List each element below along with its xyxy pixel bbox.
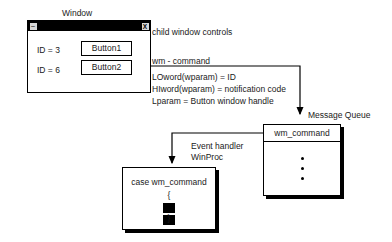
- message-queue-box: wm_command: [263, 124, 341, 196]
- close-icon[interactable]: X: [142, 23, 149, 30]
- button1[interactable]: Button1: [81, 41, 132, 56]
- child-window-controls-label: child window controls: [152, 27, 232, 38]
- message-queue-head-item[interactable]: wm_command: [264, 125, 340, 142]
- param-lparam: Lparam = Button window handle: [152, 96, 286, 107]
- button2[interactable]: Button2: [81, 60, 132, 75]
- diagram-canvas: Window – X ID = 3 Button1 ID = 6 Button2…: [0, 0, 392, 242]
- event-handler-label: Event handler WinProc: [191, 141, 243, 163]
- message-queue-label: Message Queue: [308, 110, 370, 121]
- wm-command-label: wm - command: [152, 56, 210, 67]
- button2-id-label: ID = 6: [37, 65, 60, 75]
- case-block-title: case wm_command: [123, 177, 215, 187]
- case-close-brace: }: [123, 213, 215, 223]
- queue-dot: [301, 177, 304, 180]
- case-block-body: { }: [123, 190, 215, 223]
- window-titlebar: – X: [28, 21, 150, 31]
- message-queue-pending-items: [264, 142, 340, 195]
- param-hiword: HIword(wparam) = notification code: [152, 84, 286, 95]
- case-rule: [163, 203, 175, 213]
- param-loword: LOword(wparam) = ID: [152, 72, 286, 83]
- button1-id-label: ID = 3: [37, 45, 60, 55]
- case-open-brace: {: [123, 190, 215, 200]
- window-caption: Window: [62, 8, 92, 19]
- minimize-icon[interactable]: –: [30, 23, 37, 30]
- event-handler-line2: WinProc: [191, 152, 243, 163]
- case-ellipsis: [123, 203, 215, 213]
- case-block-box: case wm_command { }: [122, 167, 216, 230]
- queue-dot: [301, 157, 304, 160]
- wm-command-parameters: LOword(wparam) = ID HIword(wparam) = not…: [152, 72, 286, 108]
- app-window: – X ID = 3 Button1 ID = 6 Button2: [27, 20, 151, 93]
- event-handler-line1: Event handler: [191, 141, 243, 152]
- queue-dot: [301, 167, 304, 170]
